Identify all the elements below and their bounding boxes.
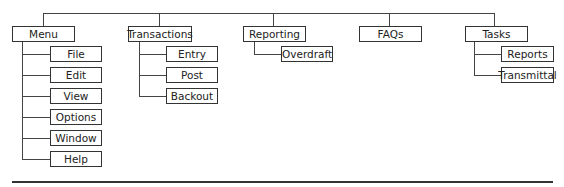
menu-node-transmittal[interactable]: Transmittal [501,67,554,83]
menu-node-reports[interactable]: Reports [501,46,554,62]
menu-node-tasks[interactable]: Tasks [465,26,528,42]
connector [22,42,23,160]
menu-node-faqs[interactable]: FAQs [359,26,422,42]
connector [273,13,274,26]
top-connector [43,13,494,14]
connector [43,13,44,26]
connector [139,54,166,55]
menu-node-view[interactable]: View [50,88,102,104]
connector [474,54,501,55]
menu-node-window[interactable]: Window [50,130,102,146]
connector [139,96,166,97]
connector [159,13,160,26]
connector [254,54,281,55]
connector [494,13,495,26]
connector [389,13,390,26]
connector [22,75,50,76]
connector [22,138,50,139]
connector [474,42,475,76]
menu-node-transactions[interactable]: Transactions [128,26,192,42]
menu-node-file[interactable]: File [50,46,102,62]
connector [22,117,50,118]
connector [22,159,50,160]
connector [22,96,50,97]
connector [474,75,501,76]
connector [139,42,140,97]
menu-node-post[interactable]: Post [166,67,218,83]
menu-node-overdraft[interactable]: Overdraft [281,46,333,62]
connector [22,54,50,55]
menu-node-help[interactable]: Help [50,151,102,167]
menu-node-entry[interactable]: Entry [166,46,218,62]
menu-node-reporting[interactable]: Reporting [243,26,306,42]
menu-node-backout[interactable]: Backout [166,88,218,104]
connector [139,75,166,76]
menu-node-options[interactable]: Options [50,109,102,125]
menu-node-edit[interactable]: Edit [50,67,102,83]
bottom-rule [12,181,553,183]
menu-node-menu[interactable]: Menu [12,26,75,42]
